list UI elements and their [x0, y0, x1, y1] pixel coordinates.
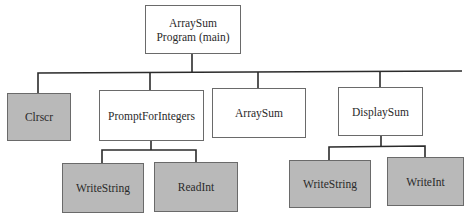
node-label: WriteInt	[406, 175, 445, 189]
node-writestring-display: WriteString	[289, 160, 371, 208]
node-label: DisplaySum	[352, 105, 409, 119]
root-node-arraysum-program: ArraySum Program (main)	[145, 5, 241, 54]
node-prompt-for-integers: PromptForIntegers	[99, 90, 204, 141]
node-label: Clrscr	[25, 110, 53, 124]
node-label: ReadInt	[178, 180, 214, 194]
node-arraysum: ArraySum	[212, 88, 306, 138]
node-readint: ReadInt	[154, 162, 238, 212]
node-label: PromptForIntegers	[108, 109, 195, 123]
node-label: ArraySum	[235, 106, 283, 120]
node-writestring-prompt: WriteString	[62, 163, 144, 213]
node-writeint: WriteInt	[387, 157, 464, 206]
root-label-line2: Program (main)	[156, 30, 229, 44]
root-label-line1: ArraySum	[169, 16, 217, 30]
node-display-sum: DisplaySum	[338, 87, 423, 136]
node-clrscr: Clrscr	[7, 93, 71, 141]
node-label: WriteString	[303, 177, 357, 191]
node-label: WriteString	[76, 181, 130, 195]
